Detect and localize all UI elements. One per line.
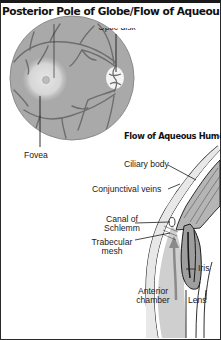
label-fovea: Fovea	[24, 151, 48, 160]
label-conjunctival-veins: Conjunctival veins	[92, 185, 161, 194]
label-iris: Iris	[198, 264, 209, 273]
section-subtitle: Flow of Aqueous Humor	[124, 131, 221, 141]
fovea-pit	[43, 77, 50, 84]
label-trabecular-mesh: Trabecular mesh	[88, 238, 136, 256]
label-trabecular-line2: mesh	[88, 247, 136, 256]
fundus-illustration	[10, 16, 134, 147]
label-lens: Lens	[188, 296, 207, 305]
label-anterior-chamber: Anterior chamber	[133, 287, 173, 305]
label-anterior-line2: chamber	[133, 296, 173, 305]
label-ciliary-body: Ciliary body	[124, 160, 169, 169]
aqueous-illustration	[135, 146, 220, 338]
label-canal-line2: Schlemm	[104, 224, 140, 233]
illustration	[0, 0, 221, 340]
label-canal-of-schlemm: Canal of Schlemm	[104, 215, 140, 233]
